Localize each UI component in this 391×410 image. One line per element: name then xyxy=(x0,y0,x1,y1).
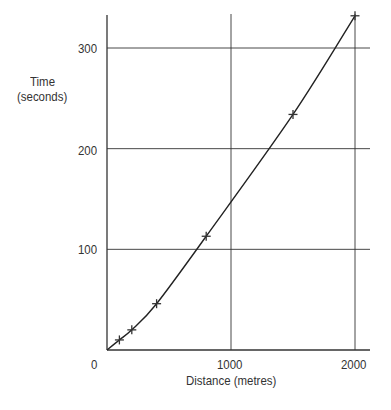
data-markers xyxy=(115,11,360,344)
x-tick-label-2000: 2000 xyxy=(341,357,366,372)
y-tick-label-300: 300 xyxy=(62,41,97,56)
x-tick-label-1000: 1000 xyxy=(217,357,242,372)
axes xyxy=(107,15,370,350)
y-axis-label-line1: Time xyxy=(30,74,55,89)
x-tick-label-0: 0 xyxy=(91,357,97,372)
y-tick-label-200: 200 xyxy=(62,143,97,158)
y-tick-label-100: 100 xyxy=(62,242,97,257)
gridlines xyxy=(107,14,370,350)
chart-plot-area xyxy=(0,0,391,410)
x-axis-label: Distance (metres) xyxy=(186,373,276,388)
y-axis-label-line2: (seconds) xyxy=(17,89,67,104)
